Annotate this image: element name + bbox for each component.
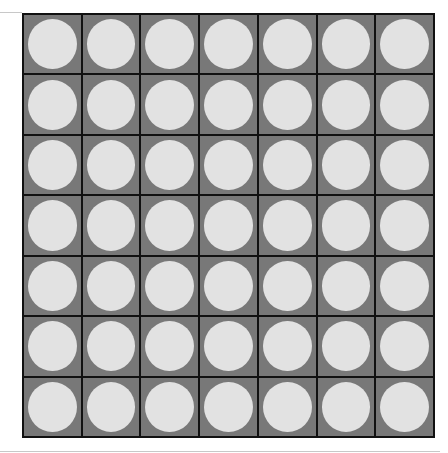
board-cell-r4-c5[interactable]: [318, 257, 375, 315]
board-cell-r2-c0[interactable]: [24, 136, 81, 194]
board-cell-r5-c3[interactable]: [200, 317, 257, 375]
board-cell-r1-c6[interactable]: [376, 75, 433, 133]
empty-slot-disc: [380, 80, 429, 130]
board-cell-r3-c6[interactable]: [376, 196, 433, 254]
board-cell-r6-c0[interactable]: [24, 378, 81, 436]
top-divider: [0, 12, 22, 13]
board-cell-r1-c1[interactable]: [83, 75, 140, 133]
board-cell-r4-c2[interactable]: [141, 257, 198, 315]
bottom-divider: [0, 451, 440, 452]
empty-slot-disc: [380, 140, 429, 190]
empty-slot-disc: [322, 382, 371, 432]
board-cell-r0-c4[interactable]: [259, 15, 316, 73]
empty-slot-disc: [87, 261, 136, 311]
board-cell-r3-c0[interactable]: [24, 196, 81, 254]
empty-slot-disc: [322, 140, 371, 190]
board-cell-r2-c1[interactable]: [83, 136, 140, 194]
board-cell-r1-c2[interactable]: [141, 75, 198, 133]
board-cell-r3-c1[interactable]: [83, 196, 140, 254]
empty-slot-disc: [145, 261, 194, 311]
empty-slot-disc: [263, 80, 312, 130]
empty-slot-disc: [204, 261, 253, 311]
board-cell-r1-c3[interactable]: [200, 75, 257, 133]
empty-slot-disc: [380, 19, 429, 69]
board-cell-r4-c4[interactable]: [259, 257, 316, 315]
board-cell-r1-c4[interactable]: [259, 75, 316, 133]
empty-slot-disc: [322, 80, 371, 130]
empty-slot-disc: [322, 261, 371, 311]
empty-slot-disc: [263, 261, 312, 311]
board-cell-r6-c6[interactable]: [376, 378, 433, 436]
board-cell-r5-c6[interactable]: [376, 317, 433, 375]
board-cell-r4-c1[interactable]: [83, 257, 140, 315]
empty-slot-disc: [322, 321, 371, 371]
board-cell-r5-c5[interactable]: [318, 317, 375, 375]
board-cell-r1-c0[interactable]: [24, 75, 81, 133]
board-cell-r6-c2[interactable]: [141, 378, 198, 436]
empty-slot-disc: [263, 321, 312, 371]
board-cell-r4-c3[interactable]: [200, 257, 257, 315]
board-cell-r0-c0[interactable]: [24, 15, 81, 73]
board-cell-r0-c3[interactable]: [200, 15, 257, 73]
empty-slot-disc: [28, 140, 77, 190]
empty-slot-disc: [380, 261, 429, 311]
board-cell-r0-c2[interactable]: [141, 15, 198, 73]
board-cell-r0-c6[interactable]: [376, 15, 433, 73]
empty-slot-disc: [204, 80, 253, 130]
board-cell-r6-c3[interactable]: [200, 378, 257, 436]
board-cell-r2-c6[interactable]: [376, 136, 433, 194]
empty-slot-disc: [87, 200, 136, 250]
board-cell-r3-c2[interactable]: [141, 196, 198, 254]
board-cell-r2-c2[interactable]: [141, 136, 198, 194]
empty-slot-disc: [87, 80, 136, 130]
empty-slot-disc: [380, 321, 429, 371]
empty-slot-disc: [204, 200, 253, 250]
empty-slot-disc: [87, 382, 136, 432]
empty-slot-disc: [322, 200, 371, 250]
empty-slot-disc: [380, 382, 429, 432]
empty-slot-disc: [87, 19, 136, 69]
game-board: [22, 13, 435, 438]
board-cell-r6-c5[interactable]: [318, 378, 375, 436]
empty-slot-disc: [263, 382, 312, 432]
empty-slot-disc: [204, 140, 253, 190]
empty-slot-disc: [145, 19, 194, 69]
empty-slot-disc: [145, 140, 194, 190]
empty-slot-disc: [204, 321, 253, 371]
board-cell-r5-c1[interactable]: [83, 317, 140, 375]
empty-slot-disc: [28, 321, 77, 371]
board-cell-r2-c4[interactable]: [259, 136, 316, 194]
empty-slot-disc: [145, 382, 194, 432]
board-cell-r4-c0[interactable]: [24, 257, 81, 315]
empty-slot-disc: [204, 19, 253, 69]
board-cell-r5-c4[interactable]: [259, 317, 316, 375]
empty-slot-disc: [380, 200, 429, 250]
empty-slot-disc: [145, 200, 194, 250]
empty-slot-disc: [263, 140, 312, 190]
empty-slot-disc: [204, 382, 253, 432]
empty-slot-disc: [28, 19, 77, 69]
board-cell-r1-c5[interactable]: [318, 75, 375, 133]
empty-slot-disc: [28, 261, 77, 311]
empty-slot-disc: [87, 140, 136, 190]
empty-slot-disc: [145, 80, 194, 130]
board-cell-r6-c1[interactable]: [83, 378, 140, 436]
empty-slot-disc: [87, 321, 136, 371]
board-cell-r3-c4[interactable]: [259, 196, 316, 254]
board-cell-r0-c1[interactable]: [83, 15, 140, 73]
board-cell-r4-c6[interactable]: [376, 257, 433, 315]
board-cell-r3-c3[interactable]: [200, 196, 257, 254]
empty-slot-disc: [263, 200, 312, 250]
empty-slot-disc: [322, 19, 371, 69]
board-cell-r6-c4[interactable]: [259, 378, 316, 436]
board-cell-r0-c5[interactable]: [318, 15, 375, 73]
empty-slot-disc: [28, 80, 77, 130]
board-cell-r2-c3[interactable]: [200, 136, 257, 194]
board-cell-r3-c5[interactable]: [318, 196, 375, 254]
empty-slot-disc: [263, 19, 312, 69]
empty-slot-disc: [28, 200, 77, 250]
board-cell-r5-c2[interactable]: [141, 317, 198, 375]
empty-slot-disc: [28, 382, 77, 432]
board-cell-r5-c0[interactable]: [24, 317, 81, 375]
board-cell-r2-c5[interactable]: [318, 136, 375, 194]
